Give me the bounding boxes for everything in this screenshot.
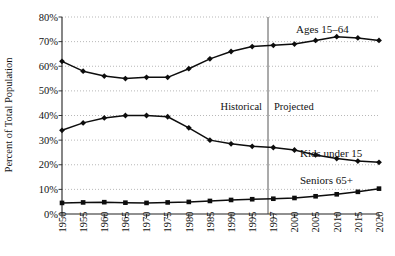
series-ages-15-64 bbox=[59, 34, 382, 82]
x-tick-label-1950: 1950 bbox=[57, 212, 68, 233]
x-tick-label-1965: 1965 bbox=[120, 212, 131, 233]
marker-1-1955 bbox=[80, 120, 86, 126]
population-age-structure-line-chart: 0%10%20%30%40%50%60%70%80% 1950195519601… bbox=[0, 0, 395, 256]
marker-2-2010 bbox=[334, 192, 339, 197]
marker-2-1985 bbox=[208, 199, 213, 204]
marker-2-1995 bbox=[250, 197, 255, 202]
marker-1-1990 bbox=[228, 141, 234, 147]
x-tick-label-1975: 1975 bbox=[162, 212, 173, 233]
marker-1-1995 bbox=[249, 143, 255, 149]
marker-1-1960 bbox=[101, 115, 107, 121]
x-tick-label-2020: 2020 bbox=[374, 212, 385, 233]
x-tick-label-1960: 1960 bbox=[99, 212, 110, 233]
marker-1-1950 bbox=[59, 127, 65, 133]
series-label-seniors-65-plus: Seniors 65+ bbox=[300, 174, 353, 186]
x-tick-label-2010: 2010 bbox=[332, 212, 343, 233]
marker-1-1975 bbox=[165, 114, 171, 120]
marker-0-1955 bbox=[80, 68, 86, 74]
marker-1-2015 bbox=[355, 158, 361, 164]
x-tick-label-2015: 2015 bbox=[353, 212, 364, 233]
marker-0-1965 bbox=[123, 76, 129, 82]
annotation-projected: Projected bbox=[274, 101, 314, 112]
marker-0-1990 bbox=[228, 49, 234, 55]
y-tick-label-80%: 80% bbox=[39, 12, 59, 23]
marker-0-1960 bbox=[101, 73, 107, 79]
marker-2-1965 bbox=[123, 200, 128, 205]
marker-0-2020 bbox=[376, 37, 382, 43]
x-tick-labels-group: 1950195519601965197019751980198519901995… bbox=[57, 212, 385, 233]
y-tick-label-30%: 30% bbox=[39, 135, 59, 146]
marker-0-1970 bbox=[144, 74, 150, 80]
marker-0-2015 bbox=[355, 35, 361, 41]
y-tick-label-20%: 20% bbox=[39, 159, 59, 170]
y-tick-label-40%: 40% bbox=[39, 110, 59, 121]
marker-1-2020 bbox=[376, 159, 382, 165]
marker-2-1975 bbox=[165, 200, 170, 205]
marker-2-1980 bbox=[187, 200, 192, 205]
x-tick-label-2000: 2000 bbox=[289, 212, 300, 233]
marker-1-1997 bbox=[270, 145, 276, 151]
y-tick-label-10%: 10% bbox=[39, 184, 59, 195]
chart-container: 0%10%20%30%40%50%60%70%80% 1950195519601… bbox=[0, 0, 395, 256]
marker-0-1975 bbox=[165, 74, 171, 80]
x-tick-label-1980: 1980 bbox=[184, 212, 195, 233]
marker-1-1965 bbox=[123, 113, 129, 119]
marker-2-1970 bbox=[144, 201, 149, 206]
marker-2-2000 bbox=[292, 196, 297, 201]
marker-1-2000 bbox=[292, 147, 298, 153]
marker-0-1950 bbox=[59, 58, 65, 64]
annotation-historical: Historical bbox=[221, 101, 262, 112]
marker-0-1997 bbox=[270, 42, 276, 48]
marker-0-1985 bbox=[207, 56, 213, 62]
marker-2-1997 bbox=[271, 196, 276, 201]
x-tick-label-1990: 1990 bbox=[226, 212, 237, 233]
marker-0-1995 bbox=[249, 44, 255, 50]
y-tick-label-50%: 50% bbox=[39, 85, 59, 96]
series-line-0 bbox=[62, 37, 379, 79]
series-label-ages-15-64: Ages 15–64 bbox=[296, 23, 349, 35]
marker-2-2005 bbox=[313, 194, 318, 199]
x-tick-label-1997: 1997 bbox=[268, 212, 279, 233]
x-tick-label-1995: 1995 bbox=[247, 212, 258, 233]
series-label-kids-under-15: Kids under 15 bbox=[300, 147, 363, 159]
marker-1-1970 bbox=[144, 113, 150, 119]
x-tick-label-2005: 2005 bbox=[310, 212, 321, 233]
series-line-2 bbox=[62, 189, 379, 203]
y-tick-label-60%: 60% bbox=[39, 61, 59, 72]
x-tick-label-1970: 1970 bbox=[141, 212, 152, 233]
y-tick-labels-group: 0%10%20%30%40%50%60%70%80% bbox=[39, 12, 62, 220]
marker-2-2020 bbox=[377, 186, 382, 191]
y-axis-title: Percent of Total Population bbox=[3, 57, 14, 173]
marker-0-2000 bbox=[292, 41, 298, 47]
marker-0-2005 bbox=[313, 37, 319, 43]
marker-2-1955 bbox=[81, 200, 86, 205]
x-tick-label-1985: 1985 bbox=[205, 212, 216, 233]
y-tick-label-70%: 70% bbox=[39, 36, 59, 47]
x-tick-label-1955: 1955 bbox=[78, 212, 89, 233]
marker-2-2015 bbox=[356, 190, 361, 195]
marker-2-1960 bbox=[102, 200, 107, 205]
marker-0-1980 bbox=[186, 66, 192, 72]
marker-2-1950 bbox=[60, 201, 65, 206]
marker-2-1990 bbox=[229, 198, 234, 203]
